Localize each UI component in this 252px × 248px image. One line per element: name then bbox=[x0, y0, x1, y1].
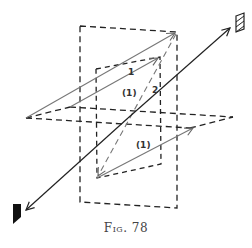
hatched-mirror-icon bbox=[236, 13, 244, 32]
axis-arrow bbox=[128, 28, 230, 118]
label-vector-2: 2 bbox=[152, 85, 158, 95]
figure-caption: Fig. 78 bbox=[0, 221, 252, 235]
vector-1-lower-projection bbox=[97, 128, 193, 178]
label-vector-1: 1 bbox=[128, 67, 134, 77]
horizontal-plane bbox=[26, 107, 233, 128]
axis-arrow-lower bbox=[26, 118, 128, 210]
figure-diagram: 1 (1) 2 (1) bbox=[0, 0, 252, 248]
label-vector-1-upper-projection: (1) bbox=[122, 88, 137, 98]
label-vector-1-lower-projection: (1) bbox=[136, 140, 151, 150]
grey-vectors bbox=[26, 33, 193, 178]
vector-1 bbox=[26, 33, 175, 118]
